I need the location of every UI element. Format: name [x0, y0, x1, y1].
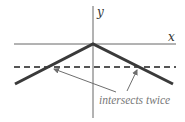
- annotation-label: intersects twice: [99, 94, 170, 106]
- diagram-canvas: y x intersects twice: [0, 0, 185, 122]
- x-axis-label: x: [168, 30, 175, 44]
- arrow-left-intersection: [54, 69, 116, 92]
- y-axis-label: y: [96, 5, 104, 19]
- arrow-right-intersection: [127, 70, 137, 91]
- graph-curve: [15, 44, 173, 84]
